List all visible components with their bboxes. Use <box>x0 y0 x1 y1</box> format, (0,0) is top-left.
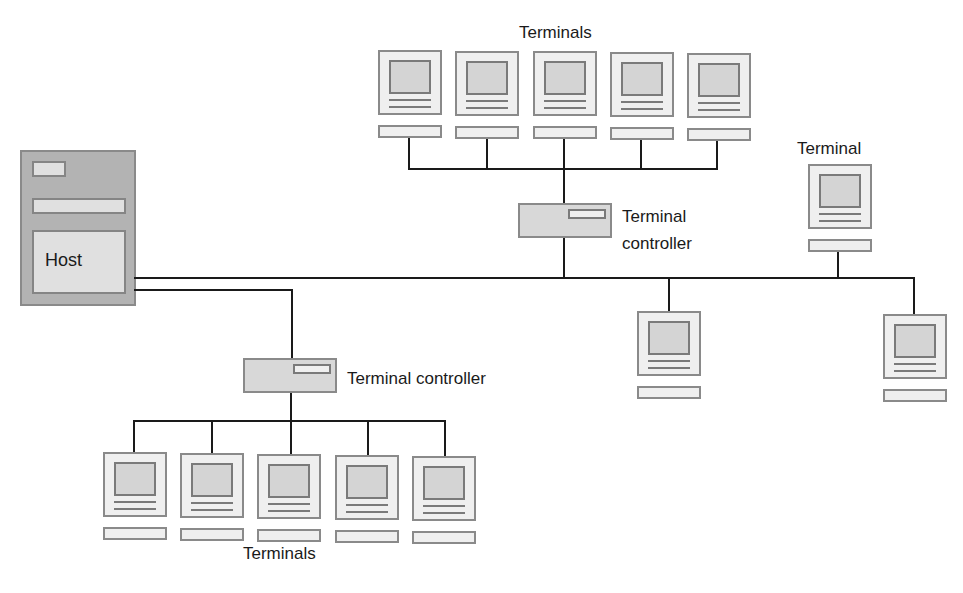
controller-slot <box>293 364 331 374</box>
keyboard-icon <box>412 531 476 544</box>
monitor-icon <box>455 51 519 116</box>
bottom-controller-label: Terminal controller <box>347 369 486 389</box>
top-drop-2 <box>486 137 488 169</box>
keyboard-icon <box>637 386 701 399</box>
terminal-top-5 <box>687 53 751 143</box>
bottom-terminals-label: Terminals <box>243 544 316 564</box>
monitor-icon <box>687 53 751 118</box>
monitor-icon <box>257 454 321 519</box>
terminal-bus-1 <box>637 311 701 401</box>
keyboard-icon <box>335 530 399 543</box>
keyboard-icon <box>533 126 597 139</box>
keyboard-icon <box>687 128 751 141</box>
keyboard-icon <box>808 239 872 252</box>
bottom-drop-5 <box>444 420 446 457</box>
host-label: Host <box>45 250 82 271</box>
top-terminals-label: Terminals <box>519 23 592 43</box>
terminal-controller-bottom <box>243 358 337 393</box>
terminal-top-1 <box>378 50 442 140</box>
host-indicator <box>32 161 66 177</box>
terminal-top-2 <box>455 51 519 141</box>
bottom-drop-3 <box>290 420 292 455</box>
top-controller-uplink <box>563 169 565 203</box>
bus-terminal-drop-1 <box>668 277 670 311</box>
terminal-standalone <box>808 164 872 254</box>
bottom-drop-1 <box>133 420 135 453</box>
terminal-bottom-3 <box>257 454 321 544</box>
controller-slot <box>568 209 606 219</box>
monitor-icon <box>412 456 476 521</box>
terminal-bus-2 <box>883 314 947 404</box>
top-drop-1 <box>408 137 410 169</box>
keyboard-icon <box>455 126 519 139</box>
monitor-icon <box>378 50 442 115</box>
main-bus-line <box>134 277 915 279</box>
top-controller-bus-link <box>563 238 565 278</box>
monitor-icon <box>637 311 701 376</box>
bottom-drop-4 <box>367 420 369 456</box>
bottom-drop-2 <box>211 420 213 454</box>
monitor-icon <box>180 453 244 518</box>
keyboard-icon <box>180 528 244 541</box>
terminal-bottom-2 <box>180 453 244 543</box>
terminal-bottom-4 <box>335 455 399 545</box>
bus-terminal-drop-2 <box>913 277 915 314</box>
monitor-icon <box>883 314 947 379</box>
monitor-icon <box>808 164 872 229</box>
lower-controller-downlink <box>290 391 292 422</box>
terminal-controller-top <box>518 203 612 238</box>
monitor-icon <box>103 452 167 517</box>
host-drive-bay <box>32 198 126 214</box>
host-panel: Host <box>32 230 126 294</box>
keyboard-icon <box>610 127 674 140</box>
top-controller-label-line1: Terminal <box>622 207 686 227</box>
monitor-icon <box>335 455 399 520</box>
terminal-bottom-5 <box>412 456 476 546</box>
keyboard-icon <box>257 529 321 542</box>
top-drop-3 <box>563 137 565 169</box>
terminal-bottom-1 <box>103 452 167 542</box>
network-diagram: Host Terminals <box>0 0 963 593</box>
standalone-terminal-label: Terminal <box>797 139 861 159</box>
monitor-icon <box>533 51 597 116</box>
keyboard-icon <box>378 125 442 138</box>
keyboard-icon <box>883 389 947 402</box>
keyboard-icon <box>103 527 167 540</box>
host-secondary-line <box>134 289 293 291</box>
lower-controller-uplink <box>291 289 293 358</box>
monitor-icon <box>610 52 674 117</box>
standalone-terminal-drop <box>837 250 839 279</box>
terminal-top-4 <box>610 52 674 142</box>
terminal-top-3 <box>533 51 597 141</box>
host-computer: Host <box>20 150 136 306</box>
top-controller-label-line2: controller <box>622 234 692 254</box>
